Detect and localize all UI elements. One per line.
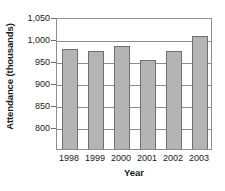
y-axis-tick-label: 1,050 [16,14,50,23]
x-axis-tick-label: 2002 [160,153,186,164]
y-axis-tick-label: 850 [16,102,50,111]
y-axis-tick-mark [51,40,56,41]
bar [192,36,208,149]
x-axis-tick-label: 2000 [108,153,134,164]
bar [114,46,130,149]
x-axis-title-label: Year [124,167,144,178]
y-axis-tick-mark [51,84,56,85]
y-axis-tick-mark [51,62,56,63]
x-axis-tick-label: 2001 [134,153,160,164]
x-axis-tick-labels: 199819992000200120022003 [56,153,212,167]
y-axis-title-label: Attendance (thousands) [4,23,15,130]
bar [88,51,104,149]
bar [166,51,182,149]
bars-layer [57,19,211,149]
y-axis-tick-mark [51,128,56,129]
plot-area [56,18,212,150]
y-axis-tick-labels: 8008509009501,0001,050 [16,0,54,160]
y-axis-tick-mark [51,18,56,19]
x-axis-tick-label: 1999 [82,153,108,164]
bar [62,49,78,149]
x-axis-tick-label: 1998 [56,153,82,164]
y-axis-tick-label: 950 [16,58,50,67]
x-axis-tick-label: 2003 [186,153,212,164]
y-axis-tick-label: 1,000 [16,36,50,45]
bar-chart: Attendance (thousands) 8008509009501,000… [0,0,225,191]
y-axis-tick-label: 800 [16,124,50,133]
x-axis-title: Year [56,167,212,178]
y-axis-tick-mark [51,106,56,107]
y-axis-tick-label: 900 [16,80,50,89]
bar [140,60,156,149]
